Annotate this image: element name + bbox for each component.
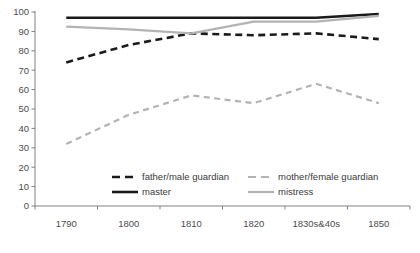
y-axis-tick-label: 70 [18,65,29,76]
x-axis: 17901800181018201830s&40s1850 [35,206,410,229]
y-axis-tick-label: 40 [18,123,29,134]
y-axis-tick-label: 90 [18,26,29,37]
legend-entry: mistress [248,186,314,197]
y-axis-tick-label: 100 [13,6,29,17]
x-axis-tick-label: 1820 [243,218,264,229]
series-line-0 [66,33,379,62]
series-line-1 [66,14,379,18]
y-axis-tick-label: 10 [18,181,29,192]
x-axis-tick-label: 1830s&40s [292,218,340,229]
x-axis-tick-label: 1850 [368,218,389,229]
data-series-group [66,14,379,144]
y-axis-tick-label: 20 [18,162,29,173]
legend-label: mother/female guardian [278,171,378,182]
chart-canvas: 0102030405060708090100 17901800181018201… [0,0,420,253]
legend-label: mistress [278,186,314,197]
legend-entry: father/male guardian [112,171,229,182]
series-line-2 [66,84,379,144]
x-axis-tick-label: 1810 [181,218,202,229]
chart-legend: father/male guardianmother/female guardi… [112,171,378,197]
line-chart: 0102030405060708090100 17901800181018201… [0,0,420,253]
y-axis-tick-label: 0 [24,200,29,211]
y-axis-tick-label: 80 [18,45,29,56]
legend-entry: master [112,186,171,197]
y-axis: 0102030405060708090100 [13,6,35,211]
x-axis-tick-label: 1790 [56,218,77,229]
legend-label: master [142,186,171,197]
x-axis-tick-label: 1800 [118,218,139,229]
y-axis-tick-label: 30 [18,142,29,153]
y-axis-tick-label: 50 [18,103,29,114]
y-axis-tick-label: 60 [18,84,29,95]
legend-entry: mother/female guardian [248,171,378,182]
legend-label: father/male guardian [142,171,229,182]
